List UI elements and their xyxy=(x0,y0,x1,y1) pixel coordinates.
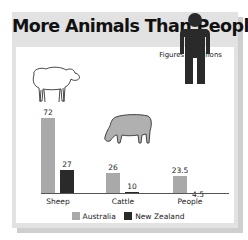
bar-sheep-australia xyxy=(41,118,55,193)
legend: Australia New Zealand xyxy=(16,212,234,221)
category-cattle: Cattle xyxy=(103,197,143,206)
bar-people-australia xyxy=(173,176,187,193)
bar-sheep-new-zealand xyxy=(60,170,74,193)
chart-area: Figures in millions 72 27 26 10 23.5 4.5… xyxy=(16,47,234,223)
bar-cattle-australia xyxy=(106,173,120,193)
value-cattle-australia: 26 xyxy=(101,163,125,172)
value-people-australia: 23.5 xyxy=(168,166,192,175)
legend-label-new-zealand: New Zealand xyxy=(135,212,184,221)
person-icon xyxy=(177,12,213,86)
legend-swatch-australia xyxy=(72,212,80,220)
legend-label-australia: Australia xyxy=(83,212,116,221)
cattle-icon xyxy=(102,111,154,149)
value-sheep-new-zealand: 27 xyxy=(55,160,79,169)
sheep-icon xyxy=(28,65,82,105)
legend-swatch-new-zealand xyxy=(124,212,132,220)
x-axis xyxy=(41,193,229,194)
value-sheep-australia: 72 xyxy=(36,108,60,117)
value-cattle-new-zealand: 10 xyxy=(120,182,144,191)
category-sheep: Sheep xyxy=(38,197,78,206)
category-people: People xyxy=(170,197,210,206)
infographic-panel: More Animals Than People Figures in mill… xyxy=(12,12,238,228)
